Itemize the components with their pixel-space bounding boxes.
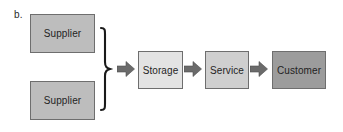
node-customer: Customer: [272, 51, 326, 89]
node-storage: Storage: [138, 51, 183, 89]
node-supplier-top-label: Supplier: [44, 28, 82, 39]
figure-label: b.: [14, 9, 23, 20]
node-service: Service: [205, 51, 249, 89]
node-supplier-top: Supplier: [30, 14, 95, 53]
right-curly-brace-icon: [96, 24, 116, 114]
supply-chain-diagram: b. Supplier Supplier Storage Service Cus…: [0, 0, 343, 132]
node-supplier-bottom-label: Supplier: [44, 95, 82, 106]
node-customer-label: Customer: [277, 65, 321, 76]
node-storage-label: Storage: [143, 65, 179, 76]
right-arrow-icon-3: [250, 61, 268, 77]
node-service-label: Service: [210, 65, 244, 76]
right-arrow-icon-1: [117, 61, 135, 77]
right-arrow-icon-2: [184, 61, 202, 77]
node-supplier-bottom: Supplier: [30, 81, 95, 120]
